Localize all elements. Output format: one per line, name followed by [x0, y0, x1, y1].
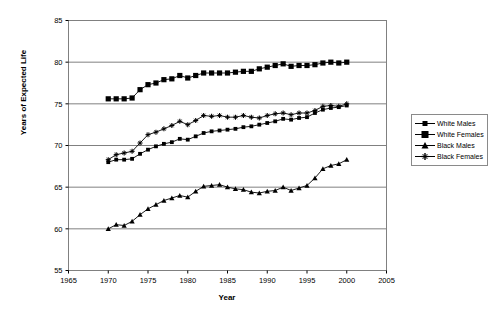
data-point [137, 87, 142, 92]
data-point [122, 158, 126, 162]
data-point [273, 63, 278, 68]
data-point [161, 77, 166, 82]
x-axis-title: Year [68, 293, 386, 302]
data-point [249, 69, 254, 74]
data-point [193, 189, 198, 194]
data-point [320, 60, 325, 65]
data-point [186, 138, 190, 142]
data-point [241, 69, 246, 74]
data-point [177, 73, 182, 78]
data-point [257, 66, 262, 71]
legend-label: Black Females [436, 152, 483, 161]
y-tick-label: 80 [54, 58, 62, 67]
x-tick-label: 1970 [100, 276, 117, 285]
y-tick-label: 55 [54, 266, 62, 275]
data-point [304, 63, 309, 68]
data-point [154, 144, 158, 148]
legend-label: White Females [436, 130, 484, 139]
x-tick-label: 1995 [299, 276, 316, 285]
data-point [130, 157, 134, 161]
data-point [312, 62, 317, 67]
data-point [305, 115, 309, 119]
data-point [145, 206, 150, 211]
data-point [178, 137, 182, 141]
x-tick-label: 2005 [378, 276, 395, 285]
data-point [177, 193, 182, 198]
data-point [169, 76, 174, 81]
data-point [297, 116, 301, 120]
series-line [108, 106, 347, 163]
legend-marker-triangle-icon [414, 141, 436, 150]
legend-label: White Males [436, 119, 476, 128]
legend-marker-small-square-icon [414, 119, 436, 128]
y-tick-label: 70 [54, 141, 62, 150]
legend-marker-large-square-icon [414, 130, 436, 139]
data-point [210, 129, 214, 133]
data-point [138, 152, 142, 156]
legend-label: Black Males [436, 141, 475, 150]
life-expectancy-chart: 5560657075808519651970197519801985199019… [0, 0, 492, 314]
y-axis-title: Years of Expected Life [19, 23, 28, 163]
data-point [185, 75, 190, 80]
data-point [281, 61, 286, 66]
data-point [209, 70, 214, 75]
data-point [320, 166, 325, 171]
data-point [218, 129, 222, 133]
data-point [249, 124, 253, 128]
chart-legend: White Males White Females Black Males [411, 114, 488, 166]
data-point [225, 70, 230, 75]
data-point [170, 140, 174, 144]
legend-item-black-males: Black Males [414, 140, 484, 151]
data-point [242, 125, 246, 129]
x-tick-label: 1980 [179, 276, 196, 285]
data-point [265, 121, 269, 125]
legend-item-white-males: White Males [414, 118, 484, 129]
data-point [153, 80, 158, 85]
series-white-males [106, 104, 348, 164]
y-tick-label: 60 [54, 225, 62, 234]
y-tick-label: 65 [54, 183, 62, 192]
data-point [289, 118, 293, 122]
data-point [234, 127, 238, 131]
legend-item-black-females: Black Females [414, 151, 484, 162]
y-tick-label: 85 [54, 16, 62, 25]
data-point [273, 119, 277, 123]
data-point [162, 142, 166, 146]
x-tick-label: 1965 [60, 276, 77, 285]
data-point [328, 60, 333, 65]
data-point [114, 158, 118, 162]
data-point [193, 73, 198, 78]
x-tick-label: 2000 [338, 276, 355, 285]
data-point [122, 96, 127, 101]
data-point [265, 65, 270, 70]
x-tick-label: 1975 [140, 276, 157, 285]
data-point [281, 117, 285, 121]
data-point [257, 123, 261, 127]
x-tick-label: 1985 [219, 276, 236, 285]
data-point [106, 96, 111, 101]
data-point [296, 63, 301, 68]
y-tick-label: 75 [54, 100, 62, 109]
series-black-males [106, 157, 350, 231]
data-point [344, 157, 349, 162]
data-point [217, 70, 222, 75]
data-point [146, 148, 150, 152]
data-point [201, 70, 206, 75]
data-point [130, 95, 135, 100]
series-line [108, 160, 347, 229]
series-line [108, 62, 347, 99]
data-point [145, 82, 150, 87]
data-point [153, 202, 158, 207]
data-point [194, 134, 198, 138]
data-point [344, 60, 349, 65]
data-point [202, 131, 206, 135]
data-point [114, 96, 119, 101]
legend-item-white-females: White Females [414, 129, 484, 140]
data-point [336, 60, 341, 65]
series-white-females [106, 60, 350, 102]
legend-marker-cross-icon [414, 152, 436, 161]
data-point [233, 70, 238, 75]
data-point [336, 161, 341, 166]
data-point [289, 64, 294, 69]
x-tick-label: 1990 [259, 276, 276, 285]
